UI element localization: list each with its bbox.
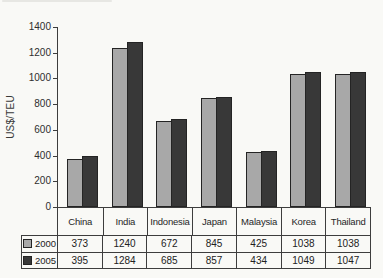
bar-2005-india xyxy=(127,42,143,207)
value-cell-2005-japan: 857 xyxy=(191,252,236,268)
legend-swatch-2000 xyxy=(23,239,32,248)
value-cell-2000-japan: 845 xyxy=(191,236,236,252)
value-cell-2005-indonesia: 685 xyxy=(146,252,191,268)
value-cell-2000-thailand: 1038 xyxy=(325,236,370,252)
bar-2005-thailand xyxy=(350,72,366,207)
bar-2005-korea xyxy=(305,72,321,207)
y-tick-label: 200 xyxy=(19,175,51,187)
bar-2000-malaysia xyxy=(246,152,262,207)
y-tick-label: 800 xyxy=(19,98,51,110)
value-cell-2005-china: 395 xyxy=(57,252,102,268)
category-label-india: India xyxy=(103,208,148,235)
y-tick-label: 1000 xyxy=(19,72,51,84)
bar-2005-malaysia xyxy=(261,151,277,207)
category-label-china: China xyxy=(58,208,103,235)
value-cell-2000-malaysia: 425 xyxy=(236,236,281,252)
y-axis-title: US$/TEU xyxy=(5,82,17,152)
value-cell-2000-korea: 1038 xyxy=(281,236,326,252)
y-tick-label: 600 xyxy=(19,124,51,136)
legend-swatch-2005 xyxy=(23,256,32,265)
y-tick-label: 1200 xyxy=(19,47,51,59)
bar-2005-indonesia xyxy=(171,119,187,207)
y-tick-label: 1400 xyxy=(19,21,51,33)
scan-artifact xyxy=(2,0,112,2)
legend-cell-2000: 2000 xyxy=(22,236,57,252)
bar-2000-japan xyxy=(201,98,217,207)
category-label-japan: Japan xyxy=(192,208,237,235)
y-axis-line xyxy=(57,27,58,208)
bar-2000-thailand xyxy=(335,74,351,207)
legend-cell-2005: 2005 xyxy=(22,252,57,268)
bar-2000-china xyxy=(67,159,83,207)
value-cell-2000-indonesia: 672 xyxy=(146,236,191,252)
value-cell-2005-malaysia: 434 xyxy=(236,252,281,268)
category-axis-row: ChinaIndiaIndonesiaJapanMalaysiaKoreaTha… xyxy=(57,207,371,235)
bar-2000-korea xyxy=(290,74,306,207)
data-table: 2000373124067284542510381038200539512846… xyxy=(21,235,371,269)
y-tick-label: 0 xyxy=(19,201,51,213)
bar-2000-india xyxy=(112,48,128,207)
value-cell-2000-china: 373 xyxy=(57,236,102,252)
value-cell-2005-india: 1284 xyxy=(102,252,147,268)
value-cell-2005-thailand: 1047 xyxy=(325,252,370,268)
value-cell-2000-india: 1240 xyxy=(102,236,147,252)
bar-2005-japan xyxy=(216,97,232,207)
scanned-bar-chart-figure: US$/TEU 0200400600800100012001400 ChinaI… xyxy=(0,0,383,278)
legend-label-2000: 2000 xyxy=(35,238,56,249)
category-label-malaysia: Malaysia xyxy=(236,208,281,235)
y-tick-label: 400 xyxy=(19,150,51,162)
category-label-thailand: Thailand xyxy=(325,208,370,235)
category-label-indonesia: Indonesia xyxy=(147,208,192,235)
legend-label-2005: 2005 xyxy=(35,255,56,266)
bar-2005-china xyxy=(82,156,98,207)
category-label-korea: Korea xyxy=(281,208,326,235)
bar-2000-indonesia xyxy=(156,121,172,207)
value-cell-2005-korea: 1049 xyxy=(281,252,326,268)
